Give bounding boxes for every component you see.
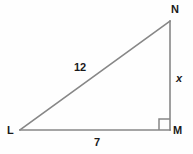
vertex-label-l: L — [7, 125, 14, 136]
side-length-vertical-unknown: x — [176, 73, 182, 84]
side-hypotenuse-line — [20, 21, 170, 130]
right-angle-marker-icon — [159, 119, 170, 130]
geometry-figure: N M L 12 x 7 — [0, 0, 193, 154]
triangle-drawing — [0, 0, 193, 154]
vertex-label-n: N — [171, 4, 179, 15]
vertex-label-m: M — [173, 125, 182, 136]
side-length-hypotenuse: 12 — [74, 62, 86, 73]
side-length-base: 7 — [94, 137, 100, 148]
